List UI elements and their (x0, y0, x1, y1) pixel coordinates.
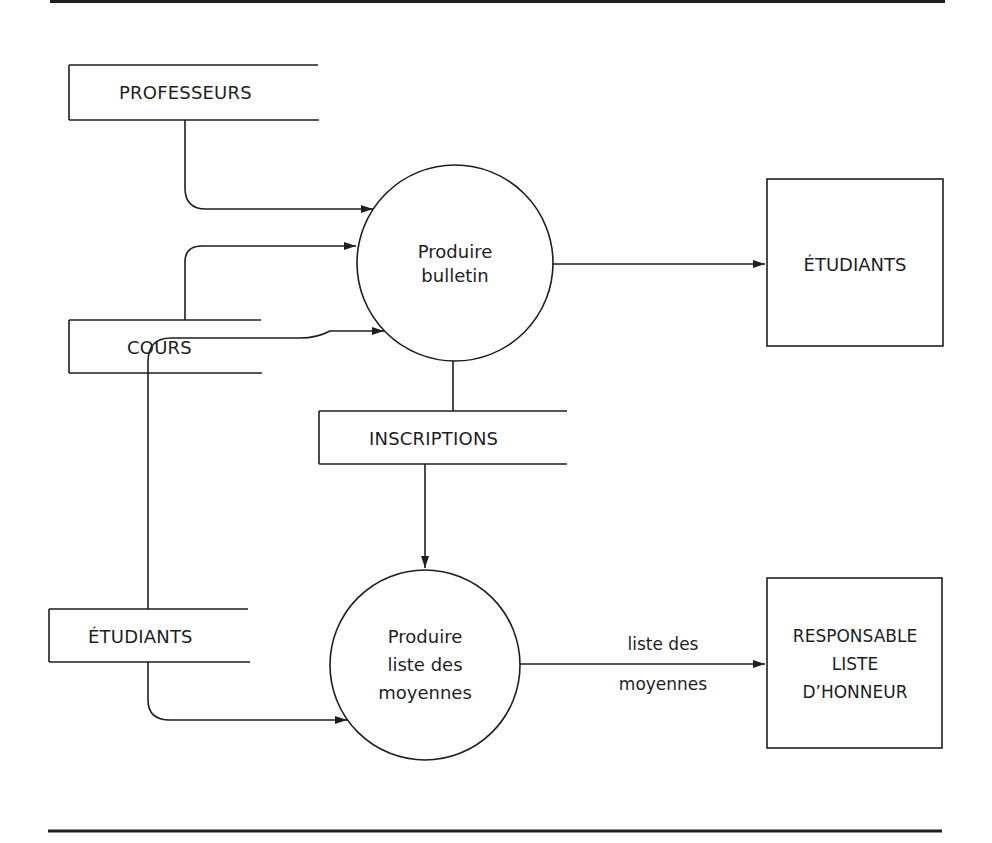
flow-cours-to-bulletin (185, 246, 356, 320)
data-store-label: PROFESSEURS (119, 84, 252, 102)
data-store-label: COURS (127, 339, 192, 357)
entity-label-responsable: RESPONSABLE LISTE D’HONNEUR (793, 622, 917, 706)
flow-professeurs-to-bulletin (185, 120, 373, 209)
flow-etudiants-to-liste (148, 662, 347, 720)
entity-label-etudiants: ÉTUDIANTS (804, 253, 907, 277)
flow-label-liste-des-moyennes: liste des moyennes (619, 624, 707, 704)
data-flow-diagram (0, 0, 992, 843)
process-label-produire-liste: Produire liste des moyennes (378, 623, 472, 707)
data-store-label: INSCRIPTIONS (369, 430, 498, 448)
process-label-produire-bulletin: Produire bulletin (418, 240, 492, 288)
data-store-label: ÉTUDIANTS (88, 628, 193, 646)
